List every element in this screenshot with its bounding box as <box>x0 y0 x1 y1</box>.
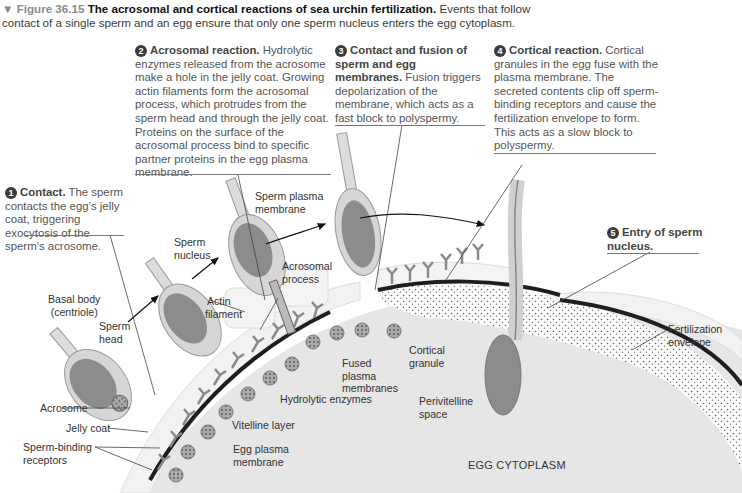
label-sperm-head: Spermhead <box>99 320 130 345</box>
label-sperm-nucleus: Spermnucleus <box>174 236 211 261</box>
step-2-rule <box>135 174 331 175</box>
label-vitelline-layer: Vitelline layer <box>232 419 295 432</box>
label-fertilization-envelope: Fertilizationenvelope <box>668 323 722 348</box>
label-actin-filament: Actinfilament <box>205 295 242 320</box>
step-number-badge: 1 <box>5 187 17 199</box>
figure-title: The acrosomal and cortical reactions of … <box>88 2 437 15</box>
figure-marker: ▼ <box>2 2 13 15</box>
step-1-callout: 1Contact. The sperm contacts the egg’s j… <box>5 186 127 254</box>
label-sperm-binding-receptors: Sperm-bindingreceptors <box>23 441 92 466</box>
step-3-callout: 3Contact and fusion of sperm and egg mem… <box>335 44 485 126</box>
label-basal-body: Basal body(centriole) <box>48 293 100 318</box>
label-egg-plasma-membrane: Egg plasmamembrane <box>233 443 289 468</box>
label-perivitelline-space: Perivitellinespace <box>419 395 473 420</box>
label-hydrolytic-enzymes: Hydrolytic enzymes <box>280 393 372 406</box>
step-2-callout: 2Acrosomal reaction. Hydrolytic enzymes … <box>135 44 330 180</box>
label-acrosome: Acrosome <box>40 402 88 415</box>
step-1-rule <box>24 235 124 236</box>
step-4-rule <box>494 153 656 154</box>
label-egg-cytoplasm: EGG CYTOPLASM <box>468 459 566 472</box>
figure-caption: ▼ Figure 36.15 The acrosomal and cortica… <box>2 2 562 30</box>
step-5-callout: 5Entry of sperm nucleus. <box>607 226 717 253</box>
figure-label: Figure 36.15 <box>17 2 85 15</box>
step-3-rule <box>335 125 485 126</box>
step-4-callout: 4Cortical reaction. Cortical granules in… <box>494 44 659 153</box>
label-jelly-coat: Jelly coat <box>66 422 110 435</box>
label-sperm-plasma-membrane: Sperm plasmamembrane <box>255 190 323 215</box>
label-acrosomal-process: Acrosomalprocess <box>282 260 332 285</box>
label-cortical-granule: Corticalgranule <box>409 344 445 369</box>
label-fused-plasma-membranes: Fusedplasmamembranes <box>342 357 398 395</box>
step-5-rule <box>607 253 699 254</box>
